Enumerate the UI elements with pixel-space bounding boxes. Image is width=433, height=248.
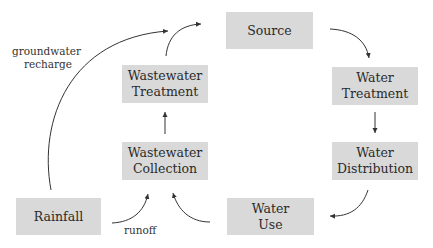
- node-label: Wastewater: [128, 68, 203, 84]
- edge-label-line: recharge: [12, 58, 72, 71]
- node-label: Water: [252, 201, 290, 217]
- node-rainfall: Rainfall: [16, 198, 101, 235]
- node-label: Source: [247, 23, 292, 39]
- node-label: Wastewater: [128, 145, 203, 161]
- node-source: Source: [226, 12, 313, 49]
- node-water-use: Water Use: [227, 198, 314, 235]
- node-water-treatment: Water Treatment: [332, 67, 418, 105]
- edge-label-groundwater-recharge: groundwater recharge: [12, 45, 72, 71]
- node-label: Distribution: [337, 161, 413, 177]
- arrow-wwtreatment-to-source: [166, 24, 201, 56]
- edge-label-runoff: runoff: [124, 224, 156, 237]
- arrow-source-to-watertreatment: [330, 29, 369, 58]
- node-water-distribution: Water Distribution: [332, 142, 418, 180]
- node-label: Use: [258, 217, 282, 233]
- node-label: Water: [356, 70, 394, 86]
- arrow-runoff: [112, 194, 148, 223]
- node-label: Treatment: [342, 86, 409, 102]
- node-wastewater-collection: Wastewater Collection: [122, 142, 208, 180]
- node-label: Treatment: [132, 84, 199, 100]
- edge-label-line: groundwater: [12, 45, 72, 58]
- node-wastewater-treatment: Wastewater Treatment: [122, 65, 208, 103]
- arrow-use-to-collection: [173, 193, 210, 222]
- node-label: Water: [356, 145, 394, 161]
- node-label: Collection: [133, 161, 197, 177]
- arrow-distribution-to-use: [330, 190, 368, 216]
- node-label: Rainfall: [34, 209, 83, 225]
